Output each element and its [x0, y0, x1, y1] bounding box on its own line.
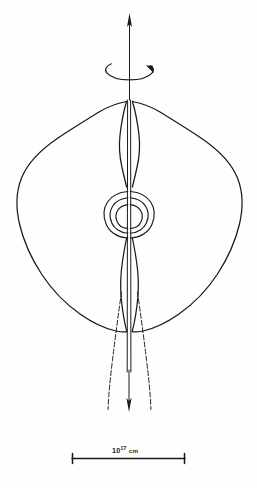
inner-loops-group: [104, 192, 154, 238]
outflow-arrow-group: [126, 370, 131, 412]
lobe-cusp-wall-left-bottom: [121, 238, 127, 332]
scale-bar-mantissa: 10: [112, 446, 120, 455]
inner-loop-left-1: [116, 205, 128, 229]
outer-lobes-group: [17, 102, 242, 332]
figure-root: 1017cm: [0, 0, 257, 488]
scale-bar-label: 1017cm: [112, 445, 138, 455]
jet-boundary-right: [138, 292, 151, 410]
outer-lobe-right: [132, 102, 242, 332]
scale-bar-group: 1017cm: [72, 445, 185, 464]
jet-boundary-left: [108, 292, 121, 410]
scale-bar-exponent: 17: [120, 445, 126, 451]
central-axis-spine-group: [127, 100, 131, 372]
rotation-axis-group: [127, 13, 132, 100]
lobe-cusp-wall-left-top: [119, 102, 126, 188]
lobe-cusp-wall-right-top: [132, 102, 139, 188]
bipolar-outflow-diagram: 1017cm: [0, 0, 257, 488]
lobe-cusp-wall-right-bottom: [132, 238, 138, 332]
inner-loop-right-1: [130, 205, 142, 229]
spin-arrowhead-icon: [146, 60, 154, 73]
scale-bar-unit: cm: [129, 447, 139, 454]
